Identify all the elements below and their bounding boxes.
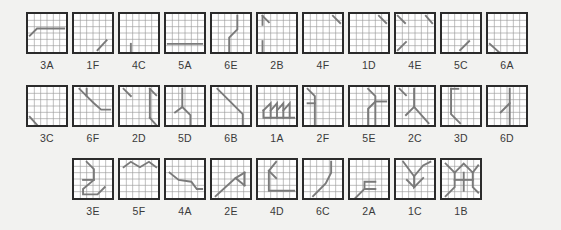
glyph-tile: 6E [208, 12, 254, 71]
glyph-strokes [308, 89, 315, 125]
glyph-label: 1D [362, 59, 376, 71]
glyph-label: 5F [132, 205, 145, 217]
glyph-tile: 2A [346, 158, 392, 217]
glyph-strokes [403, 162, 430, 187]
glyph-strokes [229, 16, 237, 52]
glyph-tile: 3A [24, 12, 70, 71]
glyph-tile: 1C [392, 158, 438, 217]
glyph-strokes [170, 173, 203, 189]
glyph-grid [302, 158, 344, 200]
glyph-grid [348, 85, 390, 127]
glyph-tile: 6B [208, 85, 254, 144]
glyph-label: 6D [500, 132, 514, 144]
glyph-grid [256, 12, 298, 54]
grid-lines [442, 14, 480, 52]
glyph-label: 4F [316, 59, 329, 71]
glyph-tile: 1A [254, 85, 300, 144]
glyph-tile: 1B [438, 158, 484, 217]
glyph-strokes [124, 89, 157, 125]
glyph-strokes [83, 162, 105, 195]
glyph-tile: 6F [70, 85, 116, 144]
glyph-tile: 4C [116, 12, 162, 71]
glyph-tile: 5C [438, 12, 484, 71]
glyph-tile: 3C [24, 85, 70, 144]
glyph-tile: 1F [70, 12, 116, 71]
grid-lines [74, 87, 112, 125]
glyph-label: 3D [454, 132, 468, 144]
glyph-label: 2D [132, 132, 146, 144]
glyph-grid [210, 85, 252, 127]
glyph-strokes [30, 117, 37, 125]
glyph-label: 2A [362, 205, 376, 217]
glyph-grid [26, 85, 68, 127]
glyph-tile: 2B [254, 12, 300, 71]
grid-lines [166, 14, 204, 52]
glyph-grid [164, 85, 206, 127]
glyph-grid [440, 12, 482, 54]
grid-lines [442, 87, 480, 125]
glyph-tile: 6C [300, 158, 346, 217]
glyph-grid [256, 85, 298, 127]
glyph-tile: 5F [116, 158, 162, 217]
glyph-label: 1F [86, 59, 99, 71]
glyph-label: 6B [224, 132, 238, 144]
glyph-tile: 3E [70, 158, 116, 217]
glyph-tile: 1D [346, 12, 392, 71]
glyph-tile: 3D [438, 85, 484, 144]
glyph-tile: 5D [162, 85, 208, 144]
glyph-label: 2B [270, 59, 284, 71]
glyph-label: 2C [408, 132, 422, 144]
grid-lines [258, 14, 296, 52]
grid-lines [258, 160, 296, 198]
glyph-grid [394, 12, 436, 54]
glyph-grid [394, 158, 436, 200]
grid-lines [28, 87, 66, 125]
glyph-sheet: 3A1F4C5A6E2B4F1D4E5C6A 3C6F2D5D6B1A2F5E2… [0, 0, 561, 230]
glyph-strokes [98, 40, 107, 50]
glyph-grid [302, 85, 344, 127]
glyph-tile: 2E [208, 158, 254, 217]
glyph-grid [256, 158, 298, 200]
glyph-strokes [368, 89, 386, 125]
glyph-grid [486, 85, 528, 127]
glyph-grid [72, 158, 114, 200]
glyph-grid [210, 158, 252, 200]
glyph-grid [118, 158, 160, 200]
glyph-label: 4D [270, 205, 284, 217]
glyph-label: 1B [454, 205, 468, 217]
glyph-tile: 5A [162, 12, 208, 71]
glyph-grid [440, 158, 482, 200]
glyph-label: 5C [454, 59, 468, 71]
glyph-label: 6E [224, 59, 238, 71]
glyph-grid [348, 158, 390, 200]
glyph-grid [72, 85, 114, 127]
grid-lines [120, 14, 158, 52]
grid-lines [350, 160, 388, 198]
glyph-strokes [175, 89, 190, 125]
glyph-label: 1A [270, 132, 284, 144]
glyph-label: 1C [408, 205, 422, 217]
grid-lines [166, 160, 204, 198]
glyph-strokes [216, 173, 245, 197]
glyph-label: 6C [316, 205, 330, 217]
glyph-strokes [379, 16, 386, 23]
glyph-strokes [355, 182, 375, 198]
tile-row-2: 3C6F2D5D6B1A2F5E2C3D6D [24, 85, 530, 144]
glyph-grid [210, 12, 252, 54]
tile-row-1: 3A1F4C5A6E2B4F1D4E5C6A [24, 12, 530, 71]
glyph-tile: 2C [392, 85, 438, 144]
grid-lines [304, 87, 342, 125]
glyph-grid [164, 12, 206, 54]
grid-lines [74, 14, 112, 52]
glyph-label: 4A [178, 205, 192, 217]
glyph-tile: 6D [484, 85, 530, 144]
glyph-tile: 4A [162, 158, 208, 217]
glyph-label: 4C [132, 59, 146, 71]
glyph-grid [118, 85, 160, 127]
glyph-label: 3E [86, 205, 100, 217]
glyph-label: 2F [316, 132, 329, 144]
glyph-tile: 2F [300, 85, 346, 144]
glyph-label: 6F [86, 132, 99, 144]
glyph-tile: 2D [116, 85, 162, 144]
glyph-strokes [501, 89, 510, 125]
